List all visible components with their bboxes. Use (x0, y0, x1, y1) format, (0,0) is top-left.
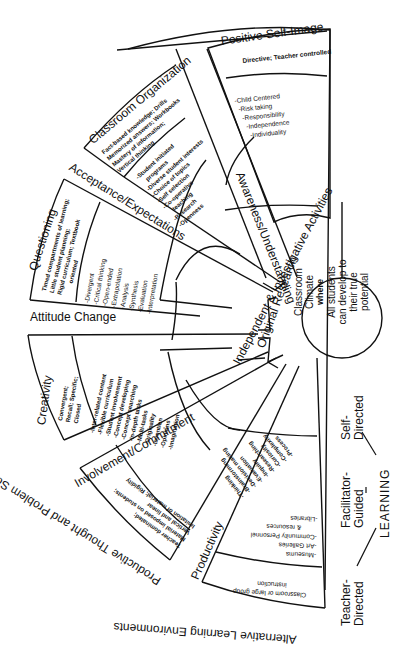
learning-scale-lines (0, 0, 409, 656)
learning-climate-diagram: Positive Self-Image Directive; Teacher c… (0, 0, 409, 656)
